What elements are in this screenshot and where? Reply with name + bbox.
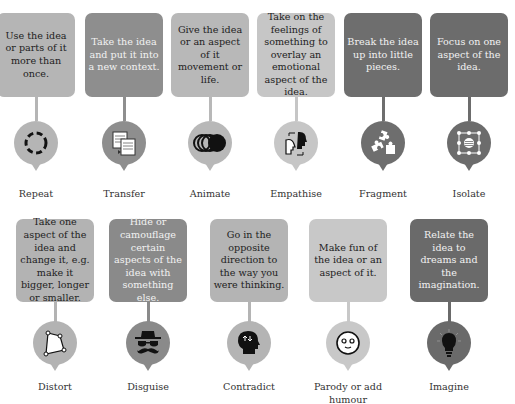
connector [54,302,57,322]
connector [147,302,150,322]
connector [468,97,471,121]
pin-isolate [447,121,491,165]
label-disguise: Disguise [99,381,197,394]
selection-box-icon [454,128,484,158]
card-distort: Take one aspect of the idea and change i… [16,219,94,302]
pin-animate [188,121,232,165]
pin-parody [326,321,370,365]
smiley-face-icon [334,329,362,357]
card-isolate: Focus on one aspect of the idea. [430,13,508,97]
card-imagine: Relate the idea to dreams and the imagin… [410,219,488,302]
label-repeat: Repeat [0,188,85,201]
documents-transfer-icon [109,128,139,158]
label-distort: Distort [6,381,104,394]
connector [209,97,212,121]
head-arrows-icon [234,328,264,358]
hat-glasses-moustache-icon [132,327,164,359]
pin-repeat [14,121,58,165]
pin-transfer [102,121,146,165]
card-contradict: Go in the opposite direction to the way … [210,219,288,302]
pin-disguise [126,321,170,365]
label-parody: Parody or add humour [305,381,391,404]
connector [35,97,38,121]
dashed-circle-icon [22,129,50,157]
connector [347,302,350,322]
pin-empathise [274,121,318,165]
label-fragment: Fragment [334,188,432,201]
label-imagine: Imagine [400,381,498,394]
label-empathise: Empathise [247,188,345,201]
puzzle-pieces-icon [368,128,398,158]
pin-fragment [361,121,405,165]
card-repeat: Use the idea or parts of it more than on… [0,13,75,97]
label-isolate: Isolate [420,188,515,201]
card-disguise: Hide or camouflage certain aspects of th… [109,219,187,302]
card-fragment: Break the idea up into little pieces. [344,13,422,97]
lightbulb-icon [435,328,463,358]
label-animate: Animate [161,188,259,201]
connector [248,302,251,322]
card-animate: Give the idea or an aspect of it movemen… [171,13,249,97]
connector [123,97,126,121]
card-parody: Make fun of the idea or an aspect of it. [309,219,387,302]
label-transfer: Transfer [75,188,173,201]
connector [382,97,385,121]
distorted-shape-icon [40,328,70,358]
pin-imagine [427,321,471,365]
card-transfer: Take the idea and put it into a new cont… [85,13,163,97]
two-heads-icon [281,128,311,158]
motion-circles-icon [193,132,227,154]
card-empathise: Take on the feelings of something to ove… [257,13,335,97]
pin-contradict [227,321,271,365]
pin-distort [33,321,77,365]
label-contradict: Contradict [200,381,298,394]
connector [448,302,451,322]
connector [295,97,298,121]
